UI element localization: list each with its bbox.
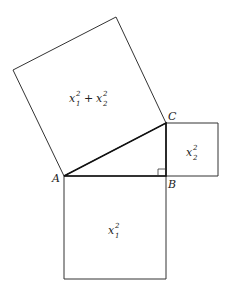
vertex-c-label: C xyxy=(168,110,177,123)
svg-text:2: 2 xyxy=(192,144,198,152)
svg-text:1: 1 xyxy=(115,232,119,240)
leg-bc-square-label: x 2 2 xyxy=(186,144,198,162)
triangle-abc xyxy=(64,123,166,176)
svg-text:x: x xyxy=(186,146,193,159)
vertex-a-label: A xyxy=(51,172,60,185)
svg-text:+: + xyxy=(84,92,93,105)
svg-text:x: x xyxy=(96,92,103,105)
svg-text:2: 2 xyxy=(75,90,81,98)
svg-text:x: x xyxy=(108,224,115,237)
right-angle-marker xyxy=(158,169,166,176)
svg-text:1: 1 xyxy=(76,100,80,108)
svg-text:x: x xyxy=(69,92,76,105)
pythagoras-diagram: A B C x 1 2 + x 2 2 x 2 2 x 1 2 xyxy=(0,0,228,294)
svg-text:2: 2 xyxy=(102,90,108,98)
svg-text:2: 2 xyxy=(192,154,198,162)
leg-ab-square-label: x 1 2 xyxy=(108,222,120,240)
hypotenuse-square-label: x 1 2 + x 2 2 xyxy=(69,90,108,108)
svg-text:2: 2 xyxy=(102,100,108,108)
vertex-b-label: B xyxy=(167,178,176,191)
svg-text:2: 2 xyxy=(114,222,120,230)
